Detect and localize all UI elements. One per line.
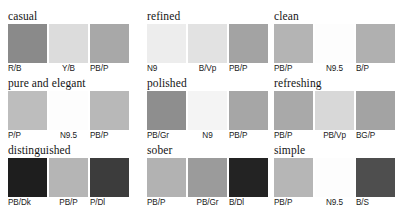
color-swatch[interactable] [229, 24, 268, 63]
color-swatch-label: PB/Vp [315, 130, 354, 142]
color-swatch[interactable] [49, 91, 88, 130]
swatch-label-row: PB/GrN9PB/P [147, 130, 269, 142]
palette-group-title: refined [147, 10, 271, 23]
color-swatch-label: PB/P [274, 197, 313, 209]
swatch-row [8, 91, 130, 130]
palette-group: refreshingPB/PPB/VpBG/P [272, 77, 398, 144]
swatch-label-row: PB/PN9.5B/P [274, 63, 396, 75]
color-swatch[interactable] [147, 24, 186, 63]
color-swatch[interactable] [8, 91, 47, 130]
palette-group: pure and elegantP/PN9.5PB/P [6, 77, 132, 144]
color-swatch-label: PB/Dk [8, 197, 47, 209]
color-swatch[interactable] [90, 158, 129, 197]
swatch-row [274, 91, 396, 130]
color-swatch-label: N9.5 [315, 63, 354, 75]
color-swatch-label: B/Dl [229, 197, 268, 209]
palette-group-title: clean [274, 10, 398, 23]
swatch-row [274, 24, 396, 63]
swatch-label-row: PB/PPB/GrB/Dl [147, 197, 269, 209]
color-swatch[interactable] [274, 158, 313, 197]
palette-group: refinedN9B/VpPB/P [145, 10, 271, 77]
color-swatch-label: PB/P [229, 130, 268, 142]
color-swatch[interactable] [188, 91, 227, 130]
color-scheme-board: casualR/BY/BPB/PrefinedN9B/VpPB/PcleanPB… [0, 0, 408, 210]
color-swatch[interactable] [315, 91, 354, 130]
color-swatch-label: PB/P [229, 63, 268, 75]
color-swatch[interactable] [49, 158, 88, 197]
swatch-row [147, 158, 269, 197]
palette-group-title: sober [147, 144, 271, 157]
swatch-row [147, 24, 269, 63]
color-swatch-label: PB/P [49, 197, 88, 209]
color-swatch-label: B/Vp [188, 63, 227, 75]
swatch-label-row: P/PN9.5PB/P [8, 130, 130, 142]
color-swatch[interactable] [315, 158, 354, 197]
color-swatch[interactable] [356, 91, 395, 130]
color-swatch-label: PB/P [90, 63, 129, 75]
color-swatch-label: PB/P [147, 197, 186, 209]
palette-group: simplePB/PN9.5B/S [272, 144, 398, 210]
color-swatch-label: N9 [147, 63, 186, 75]
color-swatch-label: PB/Gr [147, 130, 186, 142]
color-swatch[interactable] [229, 158, 268, 197]
swatch-label-row: R/BY/BPB/P [8, 63, 130, 75]
color-swatch-label: Y/B [49, 63, 88, 75]
color-swatch-label: PB/P [90, 130, 129, 142]
color-swatch-label: R/B [8, 63, 47, 75]
palette-group: distinguishedPB/DkPB/PP/Dl [6, 144, 132, 210]
color-swatch-label: B/P [356, 63, 395, 75]
palette-group-title: simple [274, 144, 398, 157]
color-swatch[interactable] [274, 91, 313, 130]
color-swatch[interactable] [147, 158, 186, 197]
palette-group: casualR/BY/BPB/P [6, 10, 132, 77]
palette-group: polishedPB/GrN9PB/P [145, 77, 271, 144]
color-swatch-label: PB/Gr [188, 197, 227, 209]
color-swatch[interactable] [229, 91, 268, 130]
color-swatch-label: N9.5 [49, 130, 88, 142]
color-swatch[interactable] [8, 158, 47, 197]
palette-group-title: casual [8, 10, 132, 23]
swatch-label-row: PB/PN9.5B/S [274, 197, 396, 209]
palette-group: cleanPB/PN9.5B/P [272, 10, 398, 77]
color-swatch-label: P/P [8, 130, 47, 142]
color-swatch[interactable] [356, 158, 395, 197]
palette-group-title: distinguished [8, 144, 132, 157]
color-swatch[interactable] [90, 91, 129, 130]
swatch-label-row: PB/PPB/VpBG/P [274, 130, 396, 142]
swatch-label-row: N9B/VpPB/P [147, 63, 269, 75]
swatch-label-row: PB/DkPB/PP/Dl [8, 197, 130, 209]
color-swatch[interactable] [147, 91, 186, 130]
color-swatch-label: N9 [188, 130, 227, 142]
color-swatch-label: N9.5 [315, 197, 354, 209]
swatch-row [147, 91, 269, 130]
palette-group-title: polished [147, 77, 271, 90]
color-swatch-label: BG/P [356, 130, 395, 142]
swatch-row [8, 24, 130, 63]
color-swatch-label: PB/P [274, 63, 313, 75]
palette-group-title: refreshing [274, 77, 398, 90]
swatch-row [8, 158, 130, 197]
color-swatch-label: PB/P [274, 130, 313, 142]
color-swatch-label: B/S [356, 197, 395, 209]
palette-group-title: pure and elegant [8, 77, 132, 90]
color-swatch[interactable] [274, 24, 313, 63]
color-swatch[interactable] [188, 158, 227, 197]
color-swatch[interactable] [8, 24, 47, 63]
color-swatch[interactable] [188, 24, 227, 63]
color-swatch[interactable] [90, 24, 129, 63]
color-swatch[interactable] [356, 24, 395, 63]
palette-group: soberPB/PPB/GrB/Dl [145, 144, 271, 210]
color-swatch-label: P/Dl [90, 197, 129, 209]
swatch-row [274, 158, 396, 197]
color-swatch[interactable] [315, 24, 354, 63]
color-swatch[interactable] [49, 24, 88, 63]
